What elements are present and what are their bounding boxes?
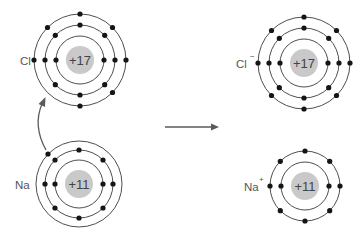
element-symbol: Cl	[236, 58, 247, 70]
ion-charge: +	[259, 175, 264, 184]
element-symbol: Na	[244, 181, 259, 193]
nucleus-charge-label: +17	[293, 56, 315, 71]
chlorine-atom: +17 Cl	[20, 11, 129, 108]
chloride-ion: +17 Cl −	[236, 14, 353, 111]
valence-electron	[45, 151, 50, 156]
sodium-ion: +11 Na +	[244, 148, 343, 223]
electron-transfer-arrow	[38, 97, 46, 150]
ion-label: Cl	[236, 58, 247, 70]
nucleus-charge-label: +11	[68, 177, 89, 192]
ion-charge: −	[250, 52, 255, 61]
atom-label: Na	[15, 179, 30, 191]
ionic-bond-diagram: +17 Cl +11	[0, 0, 363, 241]
atom-label: Cl	[20, 55, 31, 67]
nucleus-charge-label: +11	[294, 179, 315, 194]
ion-label: Na	[244, 181, 259, 193]
nucleus-charge-label: +17	[69, 53, 91, 68]
sodium-atom: +11 Na	[15, 141, 122, 227]
reaction-arrow	[165, 124, 219, 131]
